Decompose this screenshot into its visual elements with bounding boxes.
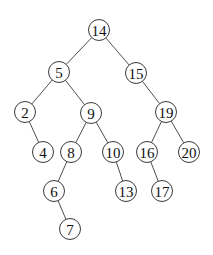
tree-node: 14 [89, 20, 110, 41]
node-label: 14 [92, 23, 108, 39]
node-label: 17 [155, 184, 171, 200]
tree-node: 10 [103, 142, 124, 163]
tree-node: 17 [152, 181, 173, 202]
tree-edge [32, 80, 52, 104]
tree-edge [29, 122, 38, 143]
tree-node: 6 [44, 181, 65, 202]
tree-nodes: 14515291948101620613177 [15, 20, 200, 240]
tree-node: 19 [156, 102, 177, 123]
tree-edge [66, 38, 92, 65]
node-label: 5 [55, 65, 63, 81]
tree-edge [171, 121, 184, 143]
node-label: 8 [67, 145, 75, 161]
node-label: 9 [87, 106, 95, 122]
node-label: 13 [119, 184, 134, 200]
tree-edge [151, 162, 158, 181]
tree-node: 9 [81, 103, 102, 124]
tree-node: 20 [179, 142, 200, 163]
tree-edge [142, 81, 159, 103]
tree-edge [76, 122, 86, 142]
tree-edge [58, 201, 66, 220]
tree-edge [116, 162, 122, 181]
tree-node: 15 [126, 63, 147, 84]
node-label: 2 [21, 105, 29, 121]
binary-tree-diagram: 14515291948101620613177 [0, 0, 213, 255]
node-label: 10 [106, 145, 121, 161]
node-label: 6 [50, 184, 58, 200]
tree-node: 5 [49, 62, 70, 83]
node-label: 15 [129, 66, 144, 82]
tree-node: 13 [116, 181, 137, 202]
tree-node: 2 [15, 102, 36, 123]
node-label: 16 [140, 145, 156, 161]
tree-edge [106, 38, 129, 65]
node-label: 7 [66, 222, 74, 238]
tree-node: 7 [60, 219, 81, 240]
tree-edge [96, 122, 108, 143]
tree-node: 4 [33, 142, 54, 163]
node-label: 20 [182, 145, 197, 161]
tree-edge [152, 121, 162, 142]
tree-node: 16 [137, 142, 158, 163]
tree-edge [58, 162, 67, 182]
tree-edge [65, 80, 84, 104]
node-label: 19 [159, 105, 174, 121]
tree-node: 8 [61, 142, 82, 163]
node-label: 4 [39, 145, 47, 161]
